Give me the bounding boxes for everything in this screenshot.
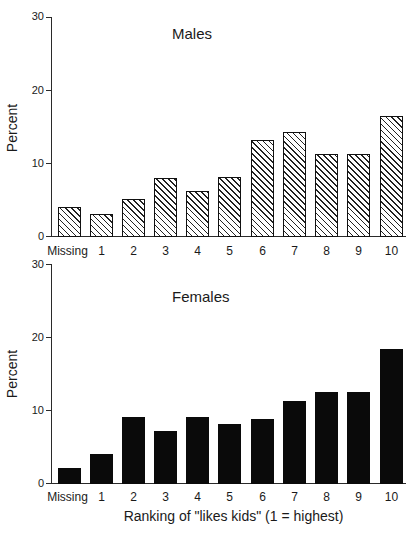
bar xyxy=(347,392,370,484)
y-tick-label: 10 xyxy=(20,405,44,416)
x-tick-label: 8 xyxy=(315,491,339,504)
y-tick xyxy=(46,410,51,411)
x-tick-label: 7 xyxy=(283,491,307,504)
females-panel: Females Percent 30 20 10 0 Missing123456… xyxy=(0,0,415,534)
x-tick-label: 5 xyxy=(218,491,242,504)
x-tick-label: 2 xyxy=(122,491,146,504)
bar xyxy=(283,401,306,484)
y-tick xyxy=(46,264,51,265)
bar xyxy=(122,417,145,484)
x-tick-label: Missing xyxy=(43,491,93,504)
bar xyxy=(90,454,113,484)
bar xyxy=(58,468,81,484)
bar xyxy=(251,419,274,484)
x-tick-label: 9 xyxy=(347,491,371,504)
y-tick-label: 30 xyxy=(20,259,44,270)
y-tick-label: 0 xyxy=(20,478,44,489)
x-tick-label: 4 xyxy=(186,491,210,504)
bar xyxy=(154,431,177,484)
x-tick-label: 3 xyxy=(154,491,178,504)
chart-title: Females xyxy=(172,289,230,305)
x-axis-label: Ranking of "likes kids" (1 = highest) xyxy=(0,508,415,524)
x-tick-label: 10 xyxy=(380,491,404,504)
y-axis-label: Percent xyxy=(4,339,20,409)
bar xyxy=(186,417,209,484)
y-tick xyxy=(46,337,51,338)
y-axis xyxy=(51,264,52,484)
bar xyxy=(315,392,338,484)
bar xyxy=(380,349,403,484)
bar xyxy=(218,424,241,484)
x-tick-label: 1 xyxy=(90,491,114,504)
x-tick-label: 6 xyxy=(251,491,275,504)
y-tick xyxy=(46,483,51,484)
y-tick-label: 20 xyxy=(20,332,44,343)
